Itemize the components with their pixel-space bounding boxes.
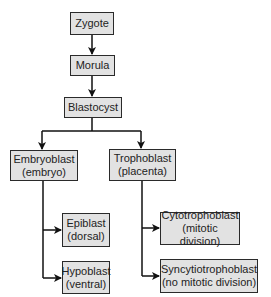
node-label: Syncytiotrophoblast [161,263,257,276]
node-sublabel: (no mitotic division) [162,276,256,289]
node-morula: Morula [70,55,115,76]
node-zygote: Zygote [70,12,114,35]
node-label: Trophoblast [114,152,172,165]
node-sublabel: (placenta) [118,165,167,178]
node-sublabel: (mitotic division) [161,222,239,248]
node-sublabel: (ventral) [66,278,106,291]
node-label: Hypoblast [62,265,111,278]
node-cytotrophoblast: Cytotrophoblast (mitotic division) [160,212,240,245]
node-trophoblast: Trophoblast (placenta) [109,149,176,181]
node-label: Morula [76,59,110,72]
node-label: Embryoblast [13,153,74,166]
node-label: Zygote [75,17,109,30]
node-label: Cytotrophoblast [161,209,238,222]
node-sublabel: (dorsal) [67,230,104,243]
node-label: Blastocyst [68,101,118,114]
node-embryoblast: Embryoblast (embryo) [10,150,78,181]
node-sublabel: (embryo) [22,166,66,179]
node-hypoblast: Hypoblast (ventral) [62,261,110,294]
node-blastocyst: Blastocyst [64,97,122,118]
node-epiblast: Epiblast (dorsal) [62,213,110,247]
node-syncytiotrophoblast: Syncytiotrophoblast (no mitotic division… [160,259,258,293]
node-label: Epiblast [66,217,105,230]
